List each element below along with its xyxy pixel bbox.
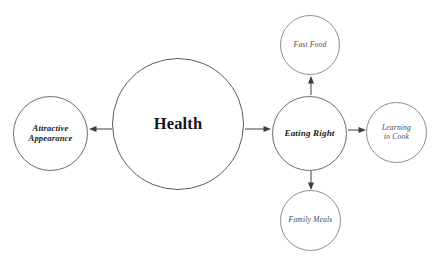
node-eating-right-label: Eating Right	[284, 128, 334, 139]
edge-eating-right-to-family-meals	[308, 171, 314, 190]
node-learning-to-cook[interactable]: Learning to Cook	[366, 102, 427, 163]
arrowhead-right-icon	[264, 126, 272, 132]
node-attractive-appearance[interactable]: Attractive Appearance	[13, 96, 88, 171]
node-family-meals-label: Family Meals	[289, 216, 333, 225]
arrowhead-left-icon	[89, 126, 97, 132]
node-family-meals[interactable]: Family Meals	[280, 190, 341, 251]
node-fast-food[interactable]: Fast Food	[280, 15, 340, 75]
node-health[interactable]: Health	[112, 58, 244, 190]
arrowhead-right-icon	[359, 127, 367, 133]
edge-health-to-eating-right	[245, 126, 271, 132]
node-attractive-appearance-label: Attractive Appearance	[29, 123, 73, 143]
node-learning-to-cook-label: Learning to Cook	[382, 124, 411, 142]
node-fast-food-label: Fast Food	[294, 41, 327, 50]
node-health-label: Health	[154, 114, 203, 133]
edge-eating-right-to-learning-to-cook	[348, 127, 366, 133]
edge-health-to-attractive-appearance	[89, 126, 112, 132]
edge-eating-right-to-fast-food	[308, 76, 314, 95]
arrowhead-up-icon	[308, 76, 314, 84]
arrowhead-down-icon	[308, 183, 314, 191]
node-eating-right[interactable]: Eating Right	[272, 96, 347, 171]
